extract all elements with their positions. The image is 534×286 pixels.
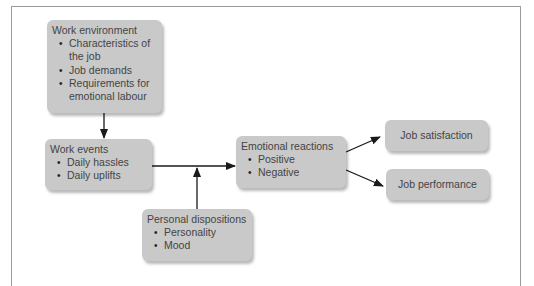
node-work-events: Work events Daily hassles Daily uplifts <box>45 139 152 190</box>
list-item: Mood <box>147 239 247 252</box>
node-items: Positive Negative <box>241 153 341 179</box>
node-title: Personal dispositions <box>147 213 247 226</box>
list-item: Characteristics of the job <box>52 37 157 63</box>
node-job-satisfaction: Job satisfaction <box>385 120 488 151</box>
node-title: Job performance <box>398 178 477 191</box>
node-items: Characteristics of the job Job demands R… <box>52 37 157 103</box>
node-title: Work environment <box>52 24 157 37</box>
list-item: Negative <box>241 166 341 179</box>
node-title: Work events <box>50 143 147 156</box>
node-items: Personality Mood <box>147 226 247 252</box>
node-title: Emotional reactions <box>241 140 341 153</box>
node-title: Job satisfaction <box>400 129 472 142</box>
node-emotional-reactions: Emotional reactions Positive Negative <box>236 136 346 188</box>
node-work-environment: Work environment Characteristics of the … <box>47 20 162 113</box>
node-items: Daily hassles Daily uplifts <box>50 156 147 182</box>
list-item: Daily hassles <box>50 156 147 169</box>
list-item: Positive <box>241 153 341 166</box>
list-item: Personality <box>147 226 247 239</box>
list-item: Requirements for emotional labour <box>52 77 157 103</box>
list-item: Job demands <box>52 64 157 77</box>
list-item: Daily uplifts <box>50 169 147 182</box>
node-job-performance: Job performance <box>386 169 489 200</box>
node-personal-dispositions: Personal dispositions Personality Mood <box>142 209 252 261</box>
arrow-reactions-to-performance <box>346 170 383 186</box>
arrow-reactions-to-satisfaction <box>346 137 380 152</box>
